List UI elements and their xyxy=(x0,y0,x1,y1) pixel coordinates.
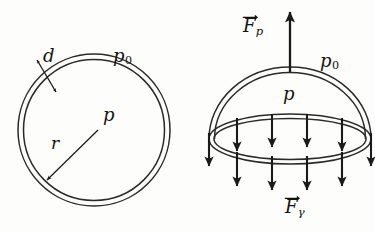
label-tension-force: F γ xyxy=(285,198,305,219)
bubble-inner-wall-circle xyxy=(24,60,165,201)
label-wall-thickness-text: d xyxy=(43,45,55,66)
bubble-outer-wall-circle xyxy=(18,54,170,206)
label-pressure-force-subscript: p xyxy=(256,24,263,38)
hemisphere-outer-rim-ellipse xyxy=(209,114,371,164)
tension-force-vector-symbol: F xyxy=(285,198,298,216)
label-pressure-force-letter: F xyxy=(243,15,256,36)
label-wall-thickness: d xyxy=(43,47,55,65)
label-radius-text: r xyxy=(51,133,59,153)
label-outside-pressure-right-symbol: p xyxy=(320,50,332,71)
label-pressure-force: F p xyxy=(243,17,263,38)
label-outside-pressure-right: p0 xyxy=(320,52,339,72)
label-tension-force-subscript: γ xyxy=(298,205,305,219)
label-radius: r xyxy=(51,135,59,152)
label-inside-pressure-left-text: p xyxy=(103,104,115,125)
label-inside-pressure-right: p xyxy=(283,85,295,103)
diagram-canvas xyxy=(0,0,375,233)
label-outside-pressure-left-symbol: p xyxy=(113,45,125,66)
label-outside-pressure-left: p0 xyxy=(113,47,132,67)
label-tension-force-letter: F xyxy=(285,196,298,217)
bubble-cross-section-group xyxy=(18,54,170,206)
physics-diagram: d p0 p r F p p0 p F γ xyxy=(0,0,375,233)
label-outside-pressure-right-subscript: 0 xyxy=(332,59,339,72)
pressure-force-vector-symbol: F xyxy=(243,17,256,35)
label-inside-pressure-right-text: p xyxy=(283,83,295,104)
label-inside-pressure-left: p xyxy=(103,106,115,124)
label-outside-pressure-left-subscript: 0 xyxy=(125,54,132,67)
